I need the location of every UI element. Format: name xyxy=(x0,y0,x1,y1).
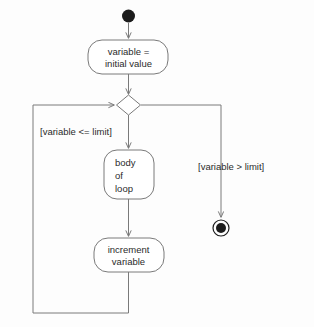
loop-condition-decision[interactable] xyxy=(117,95,141,115)
final-node xyxy=(213,220,229,236)
initialize-variable-action[interactable]: variable = initial value xyxy=(88,40,168,74)
activity-diagram-canvas: variable = initial value body of loop in… xyxy=(0,0,314,327)
increment-variable-action[interactable]: increment variable xyxy=(94,238,164,272)
guard-loop-continue: [variable <= limit] xyxy=(40,126,112,137)
initialize-variable-action-line1: variable = xyxy=(108,46,150,57)
increment-variable-action-line1: increment xyxy=(108,244,150,255)
diagram-svg: variable = initial value body of loop in… xyxy=(0,0,314,327)
loop-body-action-line1: body xyxy=(115,157,136,168)
guard-loop-exit: [variable > limit] xyxy=(198,161,264,172)
initial-node xyxy=(122,10,135,23)
loop-body-action-line3: loop xyxy=(115,183,133,194)
increment-variable-action-line2: variable xyxy=(112,256,145,267)
loop-body-action-line2: of xyxy=(115,170,123,181)
loop-body-action[interactable]: body of loop xyxy=(104,150,154,199)
initialize-variable-action-line2: initial value xyxy=(105,58,152,69)
final-node-core xyxy=(216,223,226,233)
